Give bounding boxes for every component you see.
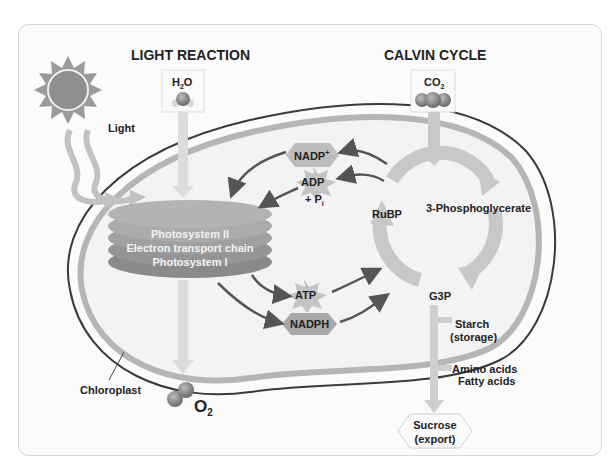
water-input-arrow xyxy=(178,112,188,192)
svg-text:+ Pi: + Pi xyxy=(305,193,324,207)
rubp-label: RuBP xyxy=(372,208,402,220)
electron-transport-chain-label: Electron transport chain xyxy=(126,242,253,254)
amino-acids-label: Amino acids xyxy=(452,363,517,375)
svg-text:NADP+: NADP+ xyxy=(294,149,329,162)
3-phosphoglycerate-label: 3-Phosphoglycerate xyxy=(426,202,531,214)
co2-label: CO xyxy=(424,76,441,88)
oxygen-label: O xyxy=(194,397,207,416)
sun-icon xyxy=(34,56,102,124)
chloroplast-label: Chloroplast xyxy=(80,384,141,396)
oxygen-output-arrow xyxy=(178,280,188,365)
light-reaction-title: LIGHT REACTION xyxy=(131,47,250,63)
chloroplast-leader-line xyxy=(109,352,124,380)
atp-label: ATP xyxy=(295,289,316,301)
water-label: H xyxy=(172,76,180,88)
g3p-label: G3P xyxy=(429,290,451,302)
photosystem-ii-label: Photosystem II xyxy=(151,228,229,240)
photosynthesis-diagram: LIGHT REACTION CALVIN CYCLE Light H2O Ph… xyxy=(0,0,614,468)
nadph-label: NADPH xyxy=(290,318,329,330)
light-label: Light xyxy=(108,122,135,134)
nadp-label: NADP xyxy=(294,150,325,162)
oxygen-molecule-icon xyxy=(167,382,194,407)
svg-text:O2: O2 xyxy=(194,397,213,418)
adp-label: ADP xyxy=(301,176,324,188)
g3p-output-arrow xyxy=(430,305,438,405)
starch-storage-label: (storage) xyxy=(450,331,497,343)
co2-molecule-icon xyxy=(415,92,451,108)
sucrose-label: Sucrose xyxy=(413,419,456,431)
photosystem-i-label: Photosystem I xyxy=(152,256,227,268)
calvin-cycle-title: CALVIN CYCLE xyxy=(384,47,486,63)
fatty-acids-label: Fatty acids xyxy=(458,375,515,387)
sucrose-export-label: (export) xyxy=(415,433,456,445)
pi-label: + P xyxy=(305,193,322,205)
starch-label: Starch xyxy=(455,318,490,330)
